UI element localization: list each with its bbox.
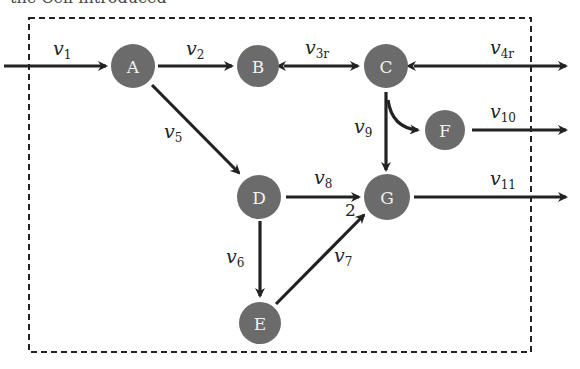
node-label-E: E [254,314,266,334]
node-label-C: C [379,57,392,77]
node-D: D [237,175,281,219]
flux-label-v7: v7 [334,244,352,269]
node-C: C [364,44,408,88]
node-E: E [239,302,281,344]
node-A: A [111,44,155,88]
flux-label-v3r: v3r [305,36,329,61]
node-label-F: F [439,121,451,141]
flux-label-v2: v2 [186,37,204,62]
flux-label-v10: v10 [490,100,516,125]
flux-label-v4r: v4r [490,36,514,61]
node-G: G [364,174,410,220]
node-F: F [425,110,465,150]
flux-label-v9: v9 [354,115,372,140]
edge-v9-to-F [388,100,418,130]
node-label-D: D [252,188,266,208]
node-B: B [237,45,279,87]
flux-label-v5: v5 [164,120,182,145]
metabolic-network-diagram: A B C F D G E v1 v2 v3r v4r v5 v6 v7 v8 … [0,0,580,369]
stoichiometry-label: 2 [345,200,356,220]
flux-label-v8: v8 [314,166,332,191]
flux-label-v6: v6 [226,245,244,270]
node-label-B: B [252,57,265,77]
node-label-A: A [126,57,140,77]
node-label-G: G [380,188,394,208]
flux-label-v11: v11 [490,167,516,192]
flux-label-v1: v1 [53,37,71,62]
